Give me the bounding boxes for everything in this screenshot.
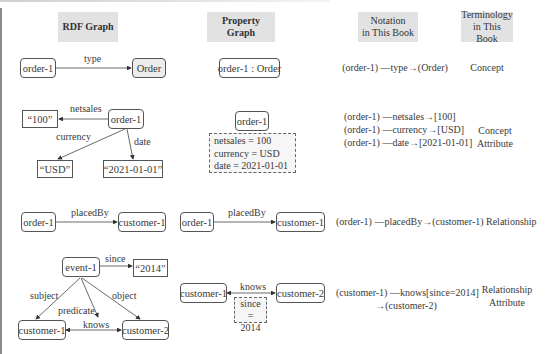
rdf-node-order-1: order-1 xyxy=(20,58,56,78)
pg-node-customer-2: customer-2 xyxy=(276,283,325,303)
edge-property-key: since = xyxy=(237,298,264,322)
edge-label-subject: subject xyxy=(30,290,58,301)
pg-node-order-1: order-1 xyxy=(235,111,269,131)
literal-label: “2014” xyxy=(135,263,165,274)
rdf-node-customer-1: customer-1 xyxy=(118,212,166,232)
node-label: customer-2 xyxy=(277,288,324,299)
term-relationship-attribute-line1: Relationship xyxy=(476,283,538,296)
node-label: customer-1 xyxy=(277,217,324,228)
edge-label-since: since xyxy=(105,253,126,264)
pg-node-order-1: order-1 xyxy=(180,212,214,232)
node-label: customer-1 xyxy=(118,217,165,228)
header-terminology: Terminology in This Book xyxy=(461,12,513,42)
pg-properties-box: netsales = 100 currency = USD date = 202… xyxy=(209,133,296,173)
rdf-node-event-1: event-1 xyxy=(62,257,100,277)
header-notation-line1: Notation xyxy=(371,15,406,27)
edge-label-predicate: predicate xyxy=(58,305,95,316)
rdf-node-order-class: Order xyxy=(132,58,166,78)
notation-relationship: (order-1) —placedBy→(customer-1) xyxy=(336,215,484,228)
left-margin-bar xyxy=(0,8,2,354)
node-label: customer-1 xyxy=(180,288,227,299)
header-notation: Notation in This Book xyxy=(358,12,418,42)
term-concept-attribute-line2: Attribute xyxy=(470,137,520,150)
edge-label-currency: currency xyxy=(56,131,91,142)
rdf-literal-2014: “2014” xyxy=(133,259,168,277)
rdf-literal-date: “2021-01-01” xyxy=(103,160,163,178)
literal-label: “2021-01-01” xyxy=(104,164,162,175)
header-terminology-line1: Terminology xyxy=(461,9,513,21)
pg-node-customer-1: customer-1 xyxy=(180,283,227,303)
node-label: order-1 xyxy=(23,217,54,228)
rdf-node-order-1: order-1 xyxy=(21,212,56,232)
rdf-node-customer-2: customer-2 xyxy=(122,320,169,340)
rdf-node-order-1: order-1 xyxy=(108,109,144,129)
literal-label: “100” xyxy=(27,114,52,125)
notation-relationship-attribute-line2: →(customer-2) xyxy=(336,299,476,312)
cut-off-text-line xyxy=(0,0,546,3)
notation-relationship-attribute-line1: (customer-1) —knows[since=2014] xyxy=(336,286,476,299)
property-date: date = 2021-01-01 xyxy=(214,160,291,173)
node-label: order-1 xyxy=(182,217,213,228)
edge-label-knows: knows xyxy=(240,281,266,292)
pg-node-order-1-typed: order-1 : Order xyxy=(219,58,280,78)
edge-label-date: date xyxy=(134,136,151,147)
rdf-literal-usd: “USD” xyxy=(37,160,73,178)
edge-property-value: 2014 xyxy=(237,322,264,334)
term-concept-attribute-line1: Concept xyxy=(470,124,520,137)
node-label: Order xyxy=(137,63,162,74)
edge-label-placedby: placedBy xyxy=(228,207,266,218)
edge-label-netsales: netsales xyxy=(70,103,102,114)
property-currency: currency = USD xyxy=(214,148,291,161)
edge-label-type: type xyxy=(84,53,101,64)
header-property-label: Property Graph xyxy=(207,15,275,39)
header-notation-line2: in This Book xyxy=(362,27,414,39)
node-label: order-1 xyxy=(237,116,268,127)
node-label: customer-1 xyxy=(18,325,65,336)
notation-date: (order-1) —date→[2021-01-01] xyxy=(344,136,472,149)
term-concept: Concept xyxy=(462,61,512,74)
node-label: order-1 xyxy=(111,114,142,125)
edge-label-object: object xyxy=(112,290,136,301)
literal-label: “USD” xyxy=(40,164,70,175)
rdf-literal-100: “100” xyxy=(22,110,58,128)
notation-netsales: (order-1) —netsales→[100] xyxy=(344,110,456,123)
node-label: order-1 xyxy=(23,63,54,74)
term-relationship-attribute-line2: Attribute xyxy=(476,296,538,309)
property-netsales: netsales = 100 xyxy=(214,135,291,148)
pg-node-customer-1: customer-1 xyxy=(276,212,325,232)
notation-concept: (order-1) —type→(Order) xyxy=(330,61,460,74)
pg-edge-properties-box: since = 2014 xyxy=(234,297,267,323)
notation-currency: (order-1) —currency→[USD] xyxy=(344,123,464,136)
header-property-graph: Property Graph xyxy=(207,12,275,42)
header-terminology-line2: in This Book xyxy=(461,21,513,45)
header-rdf-label: RDF Graph xyxy=(62,21,113,33)
term-relationship: Relationship xyxy=(486,215,537,228)
node-label: order-1 : Order xyxy=(218,63,281,74)
node-label: event-1 xyxy=(65,262,97,273)
rdf-node-customer-1: customer-1 xyxy=(18,320,66,340)
edge-label-knows: knows xyxy=(83,319,109,330)
node-label: customer-2 xyxy=(122,325,169,336)
header-rdf-graph: RDF Graph xyxy=(58,12,118,42)
edge-label-placedby: placedBy xyxy=(71,207,109,218)
